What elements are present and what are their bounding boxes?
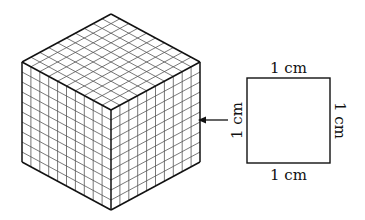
grid-cube xyxy=(22,14,200,210)
label-bottom: 1 cm xyxy=(270,166,307,184)
label-top: 1 cm xyxy=(270,59,307,77)
unit-square xyxy=(247,78,330,163)
label-right: 1 cm xyxy=(331,102,349,139)
label-left: 1 cm xyxy=(228,102,246,139)
arrow xyxy=(198,117,228,124)
cube-diagram: 1 cm 1 cm 1 cm 1 cm xyxy=(0,0,365,220)
